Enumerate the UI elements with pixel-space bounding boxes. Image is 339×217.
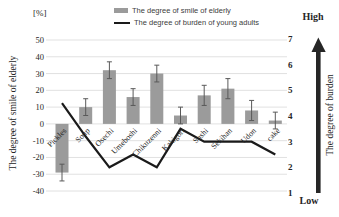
burden-arrow-shaft (316, 48, 321, 193)
legend-label-burden: The degree of burden of young adults (134, 18, 259, 27)
left-axis-tick-30: 30 (14, 69, 44, 79)
left-axis-tick--40: -40 (14, 186, 44, 196)
left-axis-unit-label: [%] (33, 8, 47, 18)
right-axis-tick-3: 3 (288, 137, 293, 147)
legend-label-smile: The degree of smile of elderly (132, 6, 231, 15)
right-axis-low-label: Low (300, 195, 319, 206)
legend-item-burden: The degree of burden of young adults (114, 18, 259, 27)
right-axis-tick-6: 6 (288, 60, 293, 70)
smile-burden-chart: [%] The degree of smile of elderly The d… (0, 0, 339, 217)
chart-legend: The degree of smile of elderly The degre… (114, 6, 259, 27)
left-axis-tick--10: -10 (14, 136, 44, 146)
right-axis-tick-7: 7 (288, 34, 293, 44)
right-axis-tick-4: 4 (288, 111, 293, 121)
legend-item-smile: The degree of smile of elderly (114, 6, 259, 15)
left-axis-tick-0: 0 (14, 119, 44, 129)
chart-canvas (0, 0, 339, 217)
right-axis-title: The degree of burden (325, 74, 335, 156)
left-axis-tick--20: -20 (14, 152, 44, 162)
burden-arrow-up-icon (312, 38, 326, 53)
left-axis-tick-20: 20 (14, 85, 44, 95)
left-axis-tick-50: 50 (14, 35, 44, 45)
right-axis-tick-5: 5 (288, 85, 293, 95)
bar-series-swatch-icon (114, 8, 128, 13)
right-axis-high-label: High (302, 11, 323, 22)
left-axis-tick-10: 10 (14, 102, 44, 112)
left-axis-tick--30: -30 (14, 169, 44, 179)
right-axis-tick-2: 2 (288, 162, 293, 172)
line-series-swatch-icon (114, 22, 130, 24)
right-axis-tick-1: 1 (288, 188, 293, 198)
left-axis-tick-40: 40 (14, 52, 44, 62)
